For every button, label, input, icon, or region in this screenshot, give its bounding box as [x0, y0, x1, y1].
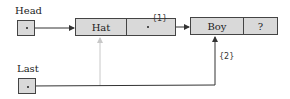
pointer-dot — [27, 86, 29, 88]
step-1-annotation: {1} — [152, 14, 167, 23]
node-next-cell — [126, 19, 175, 35]
pointer-dot — [147, 26, 149, 28]
last-label: Last — [17, 64, 39, 74]
node-data-cell: Hat — [76, 19, 126, 35]
head-label: Head — [15, 6, 42, 16]
node-data-cell: Boy — [191, 18, 243, 34]
node-next-cell: ? — [243, 18, 277, 34]
head-pointer-box — [17, 20, 35, 36]
connector-lines — [0, 0, 290, 99]
step-2-annotation: {2} — [219, 52, 234, 61]
last-pointer-box — [18, 78, 36, 94]
node-boy: Boy ? — [190, 17, 278, 35]
pointer-dot — [26, 27, 28, 29]
